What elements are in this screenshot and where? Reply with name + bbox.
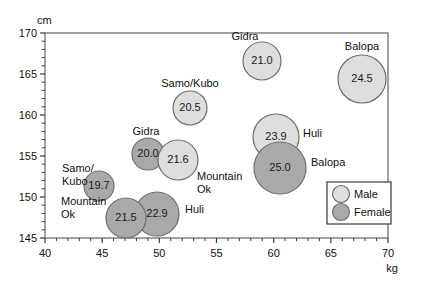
bubble-value-gidra-female: 20.0 (137, 147, 158, 159)
bubble-value-balopa-male: 24.5 (351, 72, 372, 84)
chart-canvas: 40455055606570145150155160165170cmkg21.0… (0, 0, 422, 281)
legend-label-male: Male (354, 188, 378, 200)
label-mountain-ok-male-2: Ok (197, 183, 212, 195)
label-balopa-female: Balopa (311, 156, 346, 168)
x-tick-label: 50 (153, 247, 165, 259)
label-samo-kubo-female-2: Kubo (62, 175, 88, 187)
legend-swatch-female (333, 204, 350, 221)
bubble-value-huli-female: 22.9 (146, 207, 167, 219)
x-axis-unit-label: kg (386, 262, 398, 274)
y-tick-label: 165 (19, 68, 37, 80)
label-mountain-ok-female-2: Ok (61, 208, 76, 220)
label-samo-kubo-male: Samo/Kubo (161, 77, 218, 89)
x-tick-label: 40 (39, 247, 51, 259)
y-tick-label: 150 (19, 191, 37, 203)
label-gidra-female: Gidra (133, 125, 161, 137)
label-samo-kubo-female-1: Samo/ (62, 162, 95, 174)
x-tick-label: 70 (382, 247, 394, 259)
bubble-value-huli-male: 23.9 (265, 130, 286, 142)
y-tick-label: 160 (19, 109, 37, 121)
bubble-value-gidra-male: 21.0 (251, 54, 272, 66)
label-mountain-ok-male-1: Mountain (197, 170, 242, 182)
x-tick-label: 45 (96, 247, 108, 259)
label-balopa-male: Balopa (345, 40, 380, 52)
y-axis-unit-label: cm (37, 14, 52, 26)
label-huli-male: Huli (303, 127, 322, 139)
bubble-value-samo-kubo-female: 19.7 (88, 179, 109, 191)
bubble-value-samo-kubo-male: 20.5 (179, 101, 200, 113)
x-tick-label: 60 (268, 247, 280, 259)
label-huli-female: Huli (185, 203, 204, 215)
x-tick-label: 65 (325, 247, 337, 259)
bubble-value-balopa-female: 25.0 (269, 161, 290, 173)
legend-label-female: Female (354, 206, 391, 218)
bubble-value-mountain-ok-female: 21.5 (115, 211, 136, 223)
legend-swatch-male (333, 186, 350, 203)
label-mountain-ok-female-1: Mountain (61, 195, 106, 207)
bubble-value-mountain-ok-male: 21.6 (167, 153, 188, 165)
y-tick-label: 170 (19, 27, 37, 39)
y-tick-label: 155 (19, 150, 37, 162)
label-gidra-male: Gidra (232, 30, 260, 42)
y-tick-label: 145 (19, 232, 37, 244)
bubble-chart: 40455055606570145150155160165170cmkg21.0… (0, 0, 422, 281)
x-tick-label: 55 (210, 247, 222, 259)
